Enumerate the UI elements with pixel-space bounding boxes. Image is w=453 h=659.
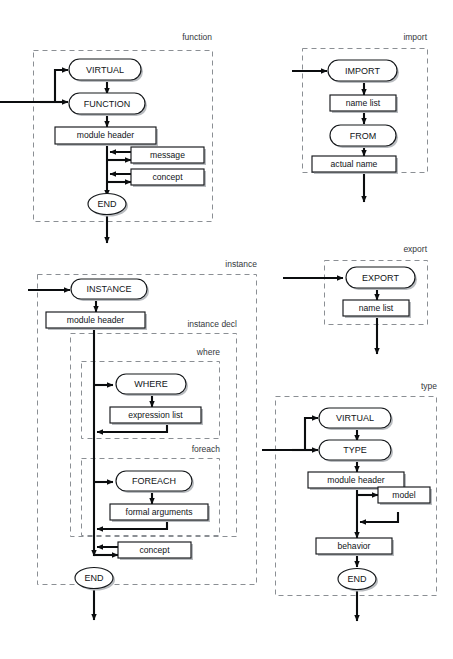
node-instance-end-label: END [84,573,104,583]
node-instance-foreach: FOREACH [116,471,194,493]
node-type-virtual-label: VIRTUAL [336,413,374,423]
node-instance-where: WHERE [116,374,188,396]
node-import-from: FROM [330,125,398,148]
node-type-type-label: TYPE [343,445,367,455]
diagram-type-label: type [421,381,437,391]
diagram-import: import IMPORT name list FROM actu [292,32,428,202]
node-export-name-list-label: name list [359,303,394,313]
diagram-where-frame [82,362,220,439]
diagram-function: function VIRTUAL [0,32,213,243]
diagram-where-label: where [196,347,220,357]
node-export-export: EXPORT [346,267,417,290]
node-import-import-label: IMPORT [345,66,380,76]
node-instance-instance-label: INSTANCE [87,284,132,294]
node-function-message-label: message [150,150,185,160]
node-function-virtual: VIRTUAL [69,59,143,82]
node-type-model-label: model [392,490,415,500]
diagram-foreach-frame [82,459,220,536]
node-instance-expression-list: expression list [110,407,203,425]
diagram-type: type VIRTUAL TYPE [262,381,437,621]
node-type-behavior: behavior [316,538,394,556]
node-import-actual-name: actual name [312,156,398,174]
node-instance-concept-label: concept [139,545,170,555]
node-function-module-header-label: module header [77,130,134,140]
node-instance-formal-arguments-label: formal arguments [126,507,193,517]
node-instance-module-header: module header [46,312,147,330]
node-type-model: model [378,487,432,505]
node-type-end-label: END [347,574,367,584]
diagram-instance-decl-label: instance decl [187,319,237,329]
node-type-behavior-label: behavior [338,541,371,551]
node-instance-foreach-label: FOREACH [132,476,176,486]
node-function-concept: concept [131,169,206,187]
diagram-export-label: export [403,244,427,254]
syntax-diagram-sheet: function VIRTUAL [0,0,453,659]
node-function-message: message [131,147,206,165]
node-function-end-label: END [97,199,117,209]
node-export-name-list: name list [343,300,411,318]
node-import-actual-name-label: actual name [331,159,378,169]
node-type-end: END [338,569,378,592]
diagram-import-label: import [403,32,427,42]
diagram-export: export EXPORT name list [283,244,428,354]
node-function-module-header: module header [55,127,158,146]
node-function-function: FUNCTION [69,93,147,116]
node-import-name-list: name list [330,95,398,113]
node-instance-where-label: WHERE [134,379,168,389]
diagram-instance-label: instance [225,259,257,269]
node-instance-instance: INSTANCE [71,279,149,301]
node-import-name-list-label: name list [346,98,381,108]
node-type-type: TYPE [319,440,393,462]
node-function-end: END [88,194,128,217]
node-instance-expression-list-label: expression list [128,410,183,420]
node-instance-module-header-label: module header [67,315,124,325]
node-type-module-header-label: module header [327,475,384,485]
node-import-from-label: FROM [350,131,377,141]
node-function-concept-label: concept [152,172,183,182]
node-type-virtual: VIRTUAL [319,408,393,430]
node-instance-formal-arguments: formal arguments [110,504,210,522]
diagram-foreach-label: foreach [192,444,221,454]
node-instance-end: END [75,568,115,591]
node-export-export-label: EXPORT [362,273,399,283]
diagram-instance: instance instance decl where foreach [28,259,257,620]
node-instance-concept: concept [118,542,193,560]
diagram-function-label: function [182,32,212,42]
node-function-virtual-label: VIRTUAL [86,65,124,75]
node-function-function-label: FUNCTION [84,99,131,109]
node-import-import: IMPORT [328,60,399,83]
